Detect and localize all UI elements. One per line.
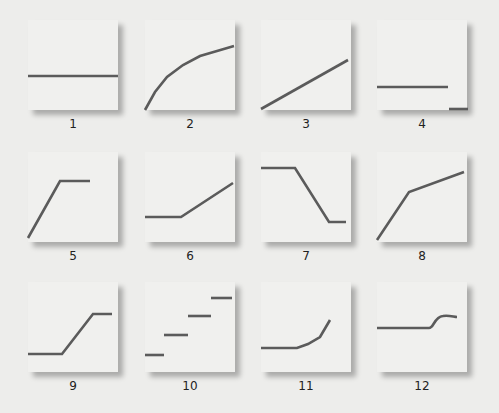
curve-step-down <box>377 20 467 110</box>
panel-label-8: 8 <box>377 249 467 263</box>
graph-panel-9 <box>28 282 118 372</box>
graph-panel-11 <box>261 282 351 372</box>
graph-panel-7 <box>261 152 351 242</box>
panel-label-12: 12 <box>377 379 467 393</box>
panel-label-7: 7 <box>261 249 351 263</box>
graph-line <box>377 316 457 328</box>
curve-flat-then-accelerating <box>261 282 351 372</box>
graph-panel-3 <box>261 20 351 110</box>
panel-label-5: 5 <box>28 249 118 263</box>
panel-label-2: 2 <box>145 117 235 131</box>
curve-flat-then-increase <box>145 152 235 242</box>
graph-line <box>261 168 346 222</box>
curve-flat-increase-flat <box>28 282 118 372</box>
panel-label-9: 9 <box>28 379 118 393</box>
panel-label-10: 10 <box>145 379 235 393</box>
panel-label-11: 11 <box>261 379 351 393</box>
graph-line <box>28 181 90 238</box>
graph-line <box>145 183 233 217</box>
graph-line <box>261 320 330 348</box>
graph-panel-12 <box>377 282 467 372</box>
graph-panel-10 <box>145 282 235 372</box>
curve-flat-decrease-flat <box>261 152 351 242</box>
graph-panel-2 <box>145 20 235 110</box>
graph-line <box>28 314 112 354</box>
graph-line <box>377 172 464 240</box>
graph-line <box>261 60 348 109</box>
graph-panel-4 <box>377 20 467 110</box>
panel-label-6: 6 <box>145 249 235 263</box>
curve-concave-increasing <box>145 20 235 110</box>
panel-label-3: 3 <box>261 117 351 131</box>
panel-label-4: 4 <box>377 117 467 131</box>
curve-increase-then-plateau <box>28 152 118 242</box>
graph-panel-1 <box>28 20 118 110</box>
curve-steep-then-gentle-increase <box>377 152 467 242</box>
curve-staircase <box>145 282 235 372</box>
curve-linear-increasing <box>261 20 351 110</box>
curve-flat-sigmoid-step <box>377 282 467 372</box>
graph-panel-8 <box>377 152 467 242</box>
curve-constant <box>28 20 118 110</box>
graph-panel-5 <box>28 152 118 242</box>
panel-label-1: 1 <box>28 117 118 131</box>
graph-panel-6 <box>145 152 235 242</box>
graph-line <box>145 46 234 110</box>
